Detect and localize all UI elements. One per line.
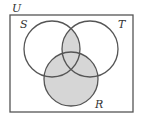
label-r: R (94, 98, 103, 111)
label-u: U (12, 2, 22, 15)
label-s: S (20, 18, 28, 31)
venn-diagram: U S T R (0, 0, 142, 115)
